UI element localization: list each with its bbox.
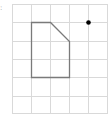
grid-lines (12, 4, 108, 114)
point-marker (86, 20, 91, 25)
grid-diagram (0, 0, 112, 119)
